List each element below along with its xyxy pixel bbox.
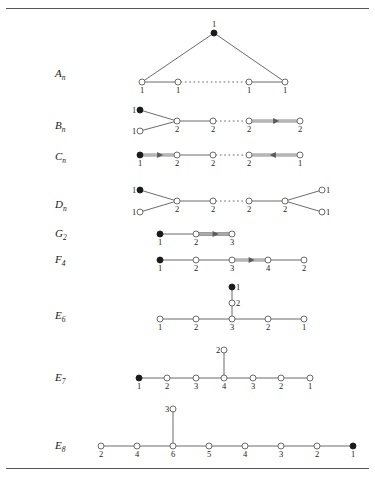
- edge-single: [216, 35, 282, 81]
- node-multiplicity-label: 2: [247, 204, 251, 214]
- node-multiplicity-label: 1: [326, 185, 330, 195]
- node-multiplicity-label: 2: [247, 158, 251, 168]
- row-label-subscript: n: [62, 125, 66, 134]
- node-multiplicity-label: 2: [211, 124, 215, 134]
- node-multiplicity-label: 3: [230, 237, 234, 247]
- node-filled: [229, 284, 235, 290]
- row-label-subscript: n: [62, 156, 66, 165]
- edge-single: [288, 202, 319, 211]
- row-label-g_2: G2: [55, 227, 67, 242]
- node-multiplicity-label: 2: [266, 322, 270, 332]
- row-label-subscript: 7: [62, 377, 66, 386]
- node-multiplicity-label: 2: [194, 322, 198, 332]
- edge-triple-arrow-right: [199, 231, 229, 237]
- node-multiplicity-label: 1: [212, 19, 216, 29]
- node-multiplicity-label: 1: [132, 185, 136, 195]
- edge-single: [143, 122, 174, 130]
- node-multiplicity-label: 2: [99, 449, 103, 459]
- node-filled: [211, 30, 217, 36]
- node-multiplicity-label: 1: [138, 158, 142, 168]
- node-open: [319, 209, 325, 215]
- node-multiplicity-label: 1: [132, 207, 136, 217]
- row-label-base: B: [55, 119, 62, 131]
- diagram-row-d_n: 11222211: [132, 185, 330, 217]
- node-multiplicity-label: 1: [158, 322, 162, 332]
- diagram-row-e_8: 324654321: [98, 404, 356, 459]
- node-multiplicity-label: 1: [158, 237, 162, 247]
- row-label-a_n: An: [55, 67, 65, 82]
- node-multiplicity-label: 2: [298, 124, 302, 134]
- node-multiplicity-label: 1: [176, 85, 180, 95]
- row-label-base: F: [55, 253, 62, 265]
- edge-single: [143, 191, 174, 200]
- node-open: [221, 347, 227, 353]
- node-multiplicity-label: 2: [211, 158, 215, 168]
- edge-single: [288, 191, 319, 200]
- node-multiplicity-label: 2: [211, 204, 215, 214]
- row-label-f_4: F4: [55, 253, 65, 268]
- row-label-e_7: E7: [55, 371, 65, 386]
- node-multiplicity-label: 1: [137, 381, 141, 391]
- row-label-base: E: [55, 309, 62, 321]
- node-multiplicity-label: 6: [171, 449, 175, 459]
- node-multiplicity-label: 1: [351, 449, 355, 459]
- node-multiplicity-label: 2: [194, 237, 198, 247]
- node-multiplicity-label: 2: [302, 263, 306, 273]
- node-filled: [137, 187, 143, 193]
- node-filled: [137, 107, 143, 113]
- node-multiplicity-label: 3: [251, 381, 255, 391]
- node-multiplicity-label: 2: [175, 158, 179, 168]
- node-multiplicity-label: 2: [283, 204, 287, 214]
- row-label-subscript: 6: [62, 315, 66, 324]
- node-multiplicity-label: 2: [165, 381, 169, 391]
- node-multiplicity-label: 1: [132, 105, 136, 115]
- edge-double-arrow-right: [235, 257, 265, 263]
- diagram-row-e_6: 1212321: [157, 282, 307, 332]
- figure-canvas: 1111111222212221112222111231234212123212…: [0, 0, 375, 486]
- row-label-b_n: Bn: [55, 119, 65, 134]
- node-multiplicity-label: 4: [243, 449, 248, 459]
- node-multiplicity-label: 1: [132, 126, 136, 136]
- node-open: [170, 406, 176, 412]
- row-label-base: D: [55, 198, 63, 210]
- node-multiplicity-label: 1: [236, 282, 240, 292]
- node-multiplicity-label: 2: [216, 345, 220, 355]
- node-multiplicity-label: 1: [140, 85, 144, 95]
- node-multiplicity-label: 2: [279, 381, 283, 391]
- edge-single: [143, 202, 174, 211]
- node-multiplicity-label: 2: [194, 263, 198, 273]
- diagram-row-f_4: 12342: [157, 257, 307, 273]
- node-multiplicity-label: 3: [230, 322, 234, 332]
- diagram-row-g_2: 123: [157, 231, 235, 247]
- node-multiplicity-label: 3: [230, 263, 234, 273]
- node-multiplicity-label: 2: [175, 124, 179, 134]
- diagram-row-a_n: 11111: [139, 19, 288, 95]
- node-multiplicity-label: 3: [279, 449, 283, 459]
- row-label-e_8: E8: [55, 439, 65, 454]
- edge-single: [143, 111, 174, 120]
- node-multiplicity-label: 4: [222, 381, 227, 391]
- edge-double-arrow-left: [252, 152, 297, 158]
- row-label-d_n: Dn: [55, 198, 67, 213]
- edge-double-arrow-right: [143, 152, 174, 158]
- node-multiplicity-label: 2: [247, 124, 251, 134]
- node-multiplicity-label: 1: [326, 207, 330, 217]
- row-label-subscript: n: [62, 73, 66, 82]
- node-multiplicity-label: 2: [315, 449, 319, 459]
- node-open: [137, 128, 143, 134]
- node-multiplicity-label: 4: [135, 449, 140, 459]
- diagram-row-c_n: 12221: [137, 152, 303, 168]
- node-open: [137, 209, 143, 215]
- node-multiplicity-label: 3: [194, 381, 198, 391]
- row-label-subscript: 4: [62, 259, 66, 268]
- node-multiplicity-label: 1: [302, 322, 306, 332]
- node-multiplicity-label: 2: [236, 298, 240, 308]
- row-label-subscript: n: [63, 204, 67, 213]
- row-label-base: G: [55, 227, 63, 239]
- node-multiplicity-label: 1: [247, 85, 251, 95]
- node-open: [319, 187, 325, 193]
- node-multiplicity-label: 5: [207, 449, 211, 459]
- row-label-base: E: [55, 439, 62, 451]
- row-label-c_n: Cn: [55, 150, 66, 165]
- node-multiplicity-label: 3: [165, 404, 169, 414]
